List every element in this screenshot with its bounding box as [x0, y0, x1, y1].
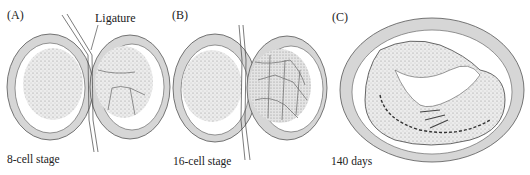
panel-a: (A) Ligature 8-cell stage [0, 0, 170, 175]
panel-a-caption: 8-cell stage [7, 153, 60, 165]
panel-c-caption: 140 days [331, 155, 372, 167]
panel-b-caption: 16-cell stage [173, 155, 231, 167]
panel-b: (B) 16-cell stage [170, 0, 340, 175]
panel-a-letter: (A) [7, 8, 24, 23]
panel-b-letter: (B) [172, 8, 188, 23]
ligature-label: Ligature [95, 11, 136, 26]
panel-c: (C) 140 days [330, 0, 530, 175]
panel-c-letter: (C) [332, 10, 348, 25]
